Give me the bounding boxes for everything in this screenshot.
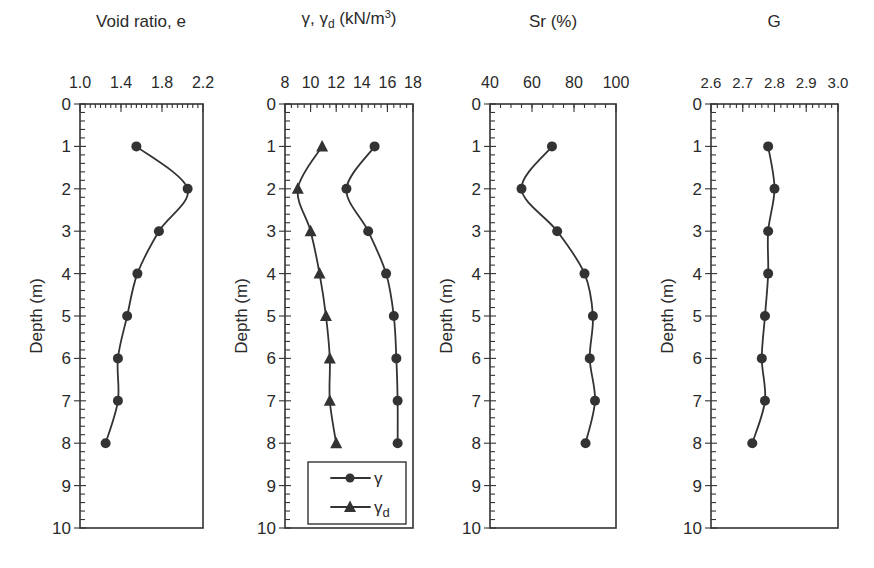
y-tick-label: 10 [683, 519, 702, 538]
y-tick-label: 8 [267, 434, 276, 453]
data-point-triangle [314, 267, 326, 279]
y-tick-label: 6 [472, 349, 481, 368]
series-line-Sr [521, 146, 595, 443]
y-tick-label: 9 [693, 477, 702, 496]
panel-void-ratio: Void ratio, e 1.01.41.82.2012345678910De… [27, 12, 214, 538]
x-tick-label: 1.8 [151, 74, 173, 91]
y-tick-label: 0 [472, 95, 481, 114]
y-tick-label: 2 [472, 180, 481, 199]
legend-label: γ [374, 469, 383, 488]
panel-title: Void ratio, e [96, 12, 186, 31]
y-axis-label: Depth (m) [437, 278, 456, 354]
data-point-circle [760, 396, 770, 406]
y-tick-label: 8 [472, 434, 481, 453]
data-point-circle [154, 226, 164, 236]
data-point-triangle [305, 225, 317, 237]
x-tick-label: 3.0 [828, 74, 849, 91]
data-point-triangle [292, 182, 304, 194]
data-point-circle [757, 353, 767, 363]
data-point-circle [547, 141, 557, 151]
y-tick-label: 6 [62, 349, 71, 368]
y-tick-label: 7 [693, 392, 702, 411]
x-tick-label: 12 [327, 74, 345, 91]
data-point-circle [389, 311, 399, 321]
y-tick-label: 5 [472, 307, 481, 326]
y-axis-label: Depth (m) [232, 278, 251, 354]
data-point-circle [760, 311, 770, 321]
y-tick-label: 5 [267, 307, 276, 326]
x-tick-label: 2.9 [796, 74, 817, 91]
x-tick-label: 16 [379, 74, 397, 91]
data-point-circle [101, 438, 111, 448]
data-point-circle [770, 184, 780, 194]
data-point-circle [370, 141, 380, 151]
data-point-circle [393, 396, 403, 406]
x-tick-label: 2.7 [732, 74, 753, 91]
y-axis-label: Depth (m) [27, 278, 46, 354]
y-tick-label: 1 [62, 137, 71, 156]
data-point-circle [763, 141, 773, 151]
plot-frame [80, 104, 203, 528]
data-point-triangle [324, 352, 336, 364]
y-tick-label: 4 [693, 265, 702, 284]
data-point-circle [580, 269, 590, 279]
data-point-circle [763, 269, 773, 279]
y-tick-label: 7 [62, 392, 71, 411]
y-tick-label: 4 [62, 265, 71, 284]
panel-title: Sr (%) [529, 12, 577, 31]
data-point-circle [590, 396, 600, 406]
data-point-circle [183, 184, 193, 194]
x-tick-label: 1.4 [110, 74, 132, 91]
plot-frame [711, 104, 838, 528]
x-tick-label: 40 [481, 74, 499, 91]
y-tick-label: 3 [693, 222, 702, 241]
data-point-circle [552, 226, 562, 236]
x-tick-label: 2.8 [764, 74, 785, 91]
y-tick-label: 7 [472, 392, 481, 411]
panel-title: G [767, 12, 780, 31]
y-tick-label: 10 [462, 519, 481, 538]
y-tick-label: 5 [62, 307, 71, 326]
data-point-circle [763, 226, 773, 236]
data-point-circle [588, 311, 598, 321]
x-tick-label: 1.0 [69, 74, 91, 91]
y-axis-label: Depth (m) [658, 278, 677, 354]
y-tick-label: 3 [62, 222, 71, 241]
series-line-γ [346, 146, 397, 443]
y-tick-label: 6 [693, 349, 702, 368]
y-tick-label: 9 [62, 477, 71, 496]
y-tick-label: 5 [693, 307, 702, 326]
y-tick-label: 2 [693, 180, 702, 199]
y-tick-label: 1 [267, 137, 276, 156]
data-point-circle [585, 353, 595, 363]
x-tick-label: 8 [281, 74, 290, 91]
x-tick-label: 2.2 [192, 74, 214, 91]
data-point-triangle [320, 310, 332, 322]
y-tick-label: 9 [267, 477, 276, 496]
data-point-circle [363, 226, 373, 236]
y-tick-label: 3 [472, 222, 481, 241]
y-tick-label: 2 [62, 180, 71, 199]
y-tick-label: 4 [472, 265, 481, 284]
y-tick-label: 10 [257, 519, 276, 538]
y-tick-label: 3 [267, 222, 276, 241]
panel-title: γ, γd (kN/m3) [302, 8, 397, 31]
data-point-circle [393, 438, 403, 448]
data-point-circle [517, 184, 527, 194]
data-point-circle [341, 184, 351, 194]
y-tick-label: 1 [472, 137, 481, 156]
y-tick-label: 1 [693, 137, 702, 156]
legend-circle-icon [346, 474, 355, 483]
data-point-triangle [324, 394, 336, 406]
y-tick-label: 0 [62, 95, 71, 114]
panel-specific-gravity: G 2.62.72.82.93.0012345678910Depth (m) [658, 12, 848, 538]
y-tick-label: 8 [693, 434, 702, 453]
data-point-circle [581, 438, 591, 448]
y-tick-label: 9 [472, 477, 481, 496]
y-tick-label: 8 [62, 434, 71, 453]
data-point-triangle [330, 437, 342, 449]
x-tick-label: 80 [565, 74, 583, 91]
y-tick-label: 6 [267, 349, 276, 368]
data-point-circle [381, 269, 391, 279]
data-point-circle [113, 396, 123, 406]
